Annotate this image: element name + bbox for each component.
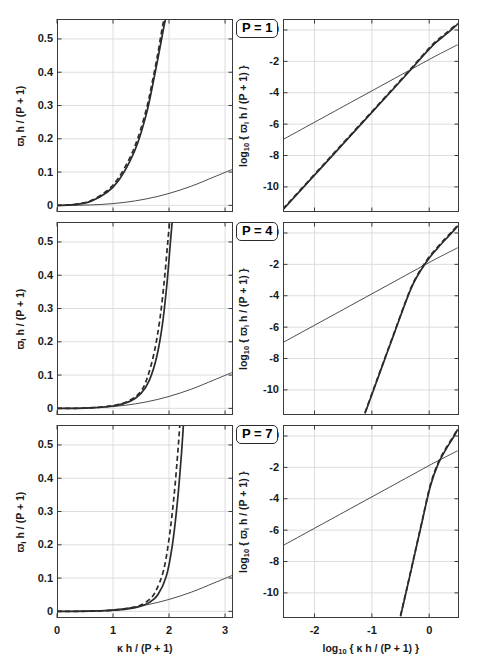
ytick-label-linear-row2: 0.4: [23, 473, 53, 484]
linear-p7-approximation-solid: [57, 422, 184, 612]
ytick-label-loglog-row0: -4: [249, 87, 279, 98]
ytick-label-linear-row1: 0.3: [23, 303, 53, 314]
ytick-label-loglog-row2: -10: [249, 587, 279, 598]
ytick-label-linear-row1: 0: [23, 403, 53, 414]
loglog-p4-approximation-solid: [365, 226, 458, 414]
ytick-label-linear-row0: 0.1: [23, 167, 53, 178]
ytick-label-loglog-row1: -2: [249, 259, 279, 270]
ytick-label-loglog-row1: -10: [249, 384, 279, 395]
ytick-label-linear-row0: 0.4: [23, 67, 53, 78]
ytick-label-linear-row2: 0: [23, 606, 53, 617]
xtick-label-linear: 0: [42, 625, 72, 636]
panel-label-p7: P = 7: [236, 425, 278, 444]
ytick-label-loglog-row0: -2: [249, 56, 279, 67]
linear-p7-exact-shallow: [57, 575, 233, 611]
ytick-label-linear-row0: 0.5: [23, 33, 53, 44]
linear-p1-approximation-solid: [57, 16, 166, 206]
ytick-label-loglog-row2: -6: [249, 525, 279, 536]
xtick-label-linear: 2: [154, 625, 184, 636]
ytick-label-linear-row1: 0.1: [23, 370, 53, 381]
ytick-label-loglog-row2: -8: [249, 556, 279, 567]
ytick-label-loglog-row1: -4: [249, 290, 279, 301]
ytick-label-loglog-row1: -8: [249, 353, 279, 364]
xtick-label-loglog: -1: [357, 625, 387, 636]
ytick-label-linear-row1: 0.5: [23, 236, 53, 247]
linear-p1-exact-shallow: [57, 169, 233, 205]
loglog-p4-exact-shallow: [283, 248, 458, 343]
ytick-label-linear-row0: 0.2: [23, 133, 53, 144]
loglog-p1-exact-shallow: [283, 45, 458, 140]
panel-label-p1: P = 1: [236, 19, 278, 38]
ytick-label-linear-row1: 0.2: [23, 336, 53, 347]
ytick-label-loglog-row0: -6: [249, 119, 279, 130]
xtick-label-loglog: -2: [300, 625, 330, 636]
ytick-label-linear-row2: 0.5: [23, 439, 53, 450]
x-axis-label-linear: κ h / (P + 1): [117, 642, 173, 654]
ytick-label-loglog-row2: -2: [249, 462, 279, 473]
loglog-p4-approximation-dashed: [365, 225, 458, 413]
ytick-label-loglog-row0: -8: [249, 150, 279, 161]
linear-p1-approximation-dashed: [57, 14, 165, 205]
linear-p7-approximation-dashed: [57, 419, 180, 611]
ytick-label-loglog-row0: -10: [249, 181, 279, 192]
ytick-label-linear-row0: 0.3: [23, 100, 53, 111]
linear-p4-approximation-solid: [57, 219, 172, 409]
xtick-label-linear: 1: [98, 625, 128, 636]
panel-label-p4: P = 4: [236, 222, 278, 241]
x-axis-label-loglog: log10 { κ h / (P + 1) }: [323, 642, 420, 656]
ytick-label-linear-row2: 0.2: [23, 539, 53, 550]
ytick-label-linear-row2: 0.1: [23, 573, 53, 584]
ytick-label-linear-row2: 0.3: [23, 506, 53, 517]
ytick-label-linear-row0: 0: [23, 200, 53, 211]
ytick-label-loglog-row2: -4: [249, 493, 279, 504]
loglog-p1-approximation-solid: [283, 24, 458, 210]
ytick-label-loglog-row1: -6: [249, 322, 279, 333]
xtick-label-linear: 3: [210, 625, 240, 636]
ytick-label-linear-row1: 0.4: [23, 270, 53, 281]
xtick-label-loglog: 0: [414, 625, 444, 636]
linear-p4-exact-shallow: [57, 372, 233, 408]
linear-p4-approximation-dashed: [57, 216, 170, 408]
loglog-p7-exact-shallow: [283, 451, 458, 546]
